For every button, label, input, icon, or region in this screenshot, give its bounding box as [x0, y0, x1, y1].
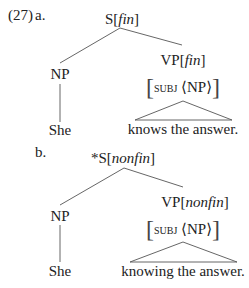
leaf-she-b: She — [49, 264, 72, 279]
leaf-vp-b: knowing the answer. — [121, 264, 245, 279]
np-node-b: NP — [50, 209, 69, 224]
vp-node-a: VP[fin] — [160, 53, 205, 68]
subexample-label-a: a. — [35, 8, 45, 23]
avm-b: [subj ⟨NP⟩] — [146, 214, 220, 238]
leaf-vp-a: knows the answer. — [128, 122, 238, 137]
example-number: (27) — [8, 8, 33, 23]
avm-a: [subj ⟨NP⟩] — [146, 72, 220, 96]
root-node-b: *S[nonfin] — [91, 151, 155, 166]
np-node-a: NP — [50, 67, 69, 82]
root-node-a: S[fin] — [105, 12, 139, 27]
vp-node-b: VP[nonfin] — [161, 195, 229, 210]
subexample-label-b: b. — [35, 145, 46, 160]
leaf-she-a: She — [49, 123, 72, 138]
